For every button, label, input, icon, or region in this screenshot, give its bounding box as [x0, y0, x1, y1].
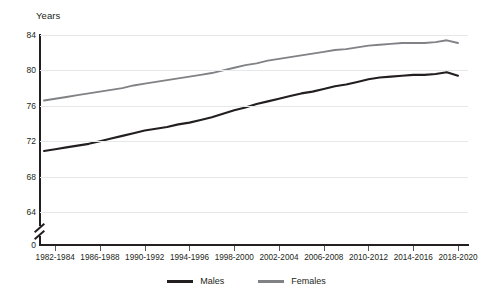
y-tick-label-0: 0 — [10, 241, 36, 249]
x-tick-2014-2016 — [413, 246, 414, 251]
y-tick-label-72: 72 — [10, 137, 36, 145]
x-tick-2018-2020 — [458, 246, 459, 251]
series-line-males — [44, 72, 458, 151]
x-tick-2010-2012 — [368, 246, 369, 251]
legend-label: Females — [291, 276, 326, 286]
x-tick-label-1990-1992: 1990-1992 — [125, 253, 164, 262]
x-tick-1998-2000 — [234, 246, 235, 251]
x-tick-label-1986-1988: 1986-1988 — [80, 253, 119, 262]
cut-off-title — [0, 0, 493, 6]
x-tick-1990-1992 — [145, 246, 146, 251]
series-lines — [40, 35, 468, 245]
y-axis-title: Years — [36, 10, 60, 21]
y-axis-tick-labels: 8480767268640 — [6, 35, 36, 250]
x-tick-label-1982-1984: 1982-1984 — [36, 253, 75, 262]
gridline-72 — [40, 141, 468, 142]
y-tick-label-80: 80 — [10, 66, 36, 74]
legend-item-females[interactable]: Females — [258, 276, 326, 286]
legend-label: Males — [200, 276, 224, 286]
x-tick-label-2002-2004: 2002-2004 — [259, 253, 298, 262]
chart-legend: MalesFemales — [0, 276, 493, 286]
y-tick-label-68: 68 — [10, 173, 36, 181]
x-tick-1982-1984 — [55, 246, 56, 251]
x-tick-label-2018-2020: 2018-2020 — [438, 253, 477, 262]
x-tick-1994-1996 — [189, 246, 190, 251]
y-tick-label-64: 64 — [10, 208, 36, 216]
y-tick-label-84: 84 — [10, 31, 36, 39]
legend-line-icon — [167, 280, 193, 283]
x-tick-2002-2004 — [279, 246, 280, 251]
x-tick-label-1994-1996: 1994-1996 — [170, 253, 209, 262]
x-tick-1986-1988 — [100, 246, 101, 251]
x-tick-label-2010-2012: 2010-2012 — [349, 253, 388, 262]
plot-area — [40, 35, 468, 245]
x-tick-2006-2008 — [324, 246, 325, 251]
legend-item-males[interactable]: Males — [167, 276, 224, 286]
x-tick-label-1998-2000: 1998-2000 — [215, 253, 254, 262]
gridline-68 — [40, 177, 468, 178]
gridline-80 — [40, 70, 468, 71]
gridline-84 — [40, 35, 468, 36]
gridline-76 — [40, 106, 468, 107]
x-axis-line — [40, 244, 469, 246]
x-tick-label-2014-2016: 2014-2016 — [394, 253, 433, 262]
gridline-64 — [40, 212, 468, 213]
y-tick-label-76: 76 — [10, 102, 36, 110]
legend-line-icon — [258, 280, 284, 283]
x-tick-label-2006-2008: 2006-2008 — [304, 253, 343, 262]
life-expectancy-chart: Years 8480767268640 1982-19841986-198819… — [0, 0, 493, 302]
